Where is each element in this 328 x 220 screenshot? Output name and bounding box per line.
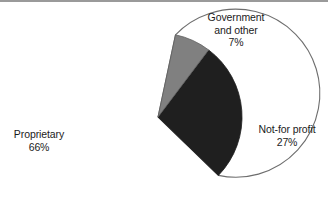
pie-label-government-and-other-line2: and other xyxy=(180,24,292,37)
pie-value-not-for-profit: 27% xyxy=(246,136,328,149)
pie-label-government-and-other-line1: Government xyxy=(180,11,292,24)
pie-label-government-and-other: Government and other 7% xyxy=(180,11,292,49)
pie-value-proprietary: 66% xyxy=(2,141,76,154)
pie-value-government-and-other: 7% xyxy=(180,36,292,49)
pie-label-proprietary: Proprietary 66% xyxy=(2,128,76,153)
pie-label-not-for-profit: Not-for profit 27% xyxy=(246,123,328,148)
pie-chart-figure: Government and other 7% Not-for profit 2… xyxy=(0,0,328,220)
pie-label-not-for-profit-line1: Not-for profit xyxy=(246,123,328,136)
pie-label-proprietary-line1: Proprietary xyxy=(2,128,76,141)
